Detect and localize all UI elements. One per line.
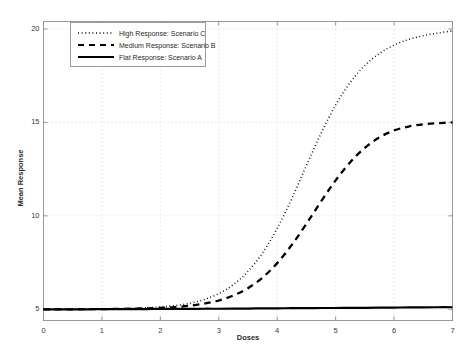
x-tick-label: 2 xyxy=(158,327,162,335)
data-series-line xyxy=(44,307,453,309)
y-tick-label: 10 xyxy=(22,212,40,220)
y-axis-ticks xyxy=(44,29,453,309)
x-tick-label: 7 xyxy=(450,327,454,335)
y-tick-label: 5 xyxy=(22,306,40,314)
legend-item[interactable]: Flat Response: Scenario A xyxy=(76,51,200,63)
legend-label: Medium Response: Scenario B xyxy=(116,42,216,49)
y-tick-label: 15 xyxy=(22,119,40,127)
x-tick-label: 1 xyxy=(100,327,104,335)
grid-horizontal xyxy=(44,29,453,309)
x-tick-label: 5 xyxy=(334,327,338,335)
legend-label: Flat Response: Scenario A xyxy=(116,54,202,61)
x-tick-label: 3 xyxy=(217,327,221,335)
y-axis-title: Mean Response xyxy=(16,149,25,206)
x-axis-title: Doses xyxy=(237,333,260,342)
legend-box[interactable]: High Response: Scenario C Medium Respons… xyxy=(70,22,206,67)
legend-swatch-dashed-icon xyxy=(76,40,116,50)
data-series-group xyxy=(44,31,453,309)
legend-item[interactable]: Medium Response: Scenario B xyxy=(76,39,200,51)
legend-label: High Response: Scenario C xyxy=(116,30,205,37)
y-tick-label: 20 xyxy=(22,25,40,33)
legend-swatch-solid-icon xyxy=(76,52,116,62)
legend-item[interactable]: High Response: Scenario C xyxy=(76,27,200,39)
x-tick-label: 6 xyxy=(392,327,396,335)
x-tick-label: 4 xyxy=(275,327,279,335)
data-series-line xyxy=(44,31,453,309)
figure-canvas: 01234567 5101520 Doses Mean Response Hig… xyxy=(0,0,467,350)
x-tick-label: 0 xyxy=(41,327,45,335)
legend-swatch-dotted-icon xyxy=(76,28,116,38)
